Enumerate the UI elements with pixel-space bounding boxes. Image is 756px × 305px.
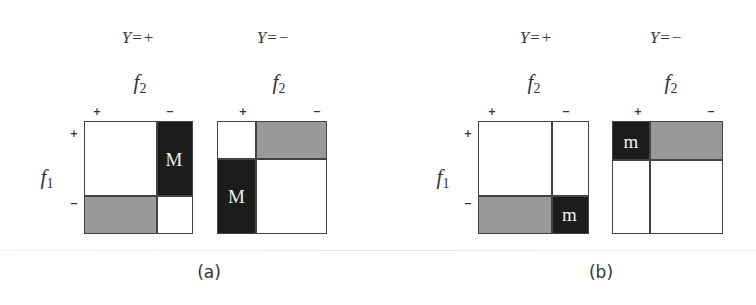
condition-val: − — [671, 28, 683, 47]
condition-val: − — [278, 28, 290, 47]
cell-label-M: M — [218, 186, 255, 205]
col-sign-minus-a2: − — [313, 107, 321, 117]
row-sign-minus-b: − — [464, 199, 472, 209]
divider-vertical — [649, 122, 651, 233]
condition-eq: = — [659, 28, 671, 47]
divider-vertical — [551, 122, 553, 233]
cell-label-M: M — [156, 149, 192, 168]
divider-vertical — [156, 122, 158, 233]
cell-top-right-black: M — [156, 122, 192, 195]
divider-vertical — [255, 122, 257, 233]
faint-page-line — [0, 250, 756, 251]
caption-a: (a) — [197, 262, 221, 282]
cell-bottom-right-black: m — [551, 195, 588, 233]
contingency-box-b1: m — [478, 121, 589, 234]
condition-eq: = — [266, 28, 278, 47]
condition-val: + — [541, 28, 553, 47]
col-axis-label-b2: f2 — [665, 70, 678, 97]
col-sign-minus-b2: − — [707, 107, 715, 117]
condition-label-b1: Y=+ — [520, 28, 553, 48]
col-sign-plus-a2: + — [239, 107, 247, 117]
divider-horizontal — [218, 158, 326, 160]
row-sign-plus-a: + — [70, 129, 78, 139]
divider-horizontal — [85, 195, 192, 197]
divider-horizontal — [613, 159, 722, 161]
col-sign-plus-b1: + — [488, 107, 496, 117]
axis-subscript: 2 — [278, 81, 285, 96]
cell-top-left-black: m — [613, 122, 649, 159]
row-sign-plus-b: + — [464, 129, 472, 139]
row-sign-minus-a: − — [70, 199, 78, 209]
col-sign-minus-b1: − — [562, 107, 570, 117]
caption-b: (b) — [589, 262, 613, 282]
cell-label-m: m — [613, 131, 649, 150]
col-axis-label-b1: f2 — [528, 70, 541, 97]
row-axis-label-a: f1 — [41, 165, 54, 192]
col-axis-label-a2: f2 — [273, 70, 286, 97]
axis-subscript: 2 — [533, 81, 540, 96]
condition-label-a1: Y=+ — [122, 28, 155, 48]
cell-top-right-gray — [255, 122, 326, 158]
axis-subscript: 2 — [670, 81, 677, 96]
col-sign-plus-a1: + — [93, 107, 101, 117]
axis-subscript: 2 — [139, 81, 146, 96]
cell-label-m: m — [551, 205, 588, 224]
axis-subscript: 1 — [46, 176, 53, 191]
cell-bottom-left-gray — [85, 195, 156, 233]
contingency-box-a1: M — [84, 121, 193, 234]
condition-label-a2: Y=− — [257, 28, 290, 48]
condition-eq: = — [529, 28, 541, 47]
contingency-box-a2: M — [217, 121, 327, 234]
contingency-box-b2: m — [612, 121, 723, 234]
condition-val: + — [143, 28, 155, 47]
cell-bottom-left-black: M — [218, 158, 255, 233]
row-axis-label-b: f1 — [437, 165, 450, 192]
divider-horizontal — [479, 195, 588, 197]
axis-subscript: 1 — [442, 176, 449, 191]
col-sign-plus-b2: + — [634, 107, 642, 117]
col-sign-minus-a1: − — [166, 107, 174, 117]
col-axis-label-a1: f2 — [134, 70, 147, 97]
condition-eq: = — [131, 28, 143, 47]
condition-label-b2: Y=− — [650, 28, 683, 48]
cell-top-right-gray — [649, 122, 722, 159]
cell-bottom-left-gray — [479, 195, 551, 233]
